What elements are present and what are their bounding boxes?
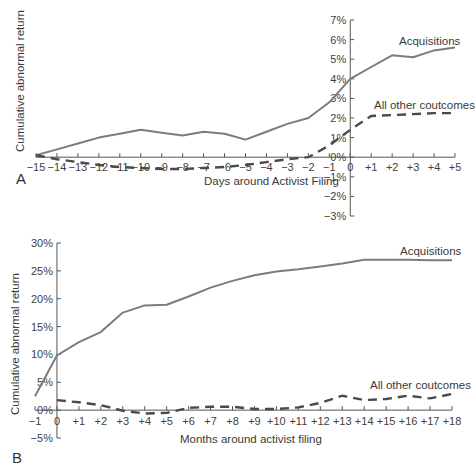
chart-panel-a: −15−14−13−12−11−10−9−8−7−6−5−4−3−2−10+1+… [14, 10, 475, 222]
figure: −15−14−13−12−11−10−9−8−7−6−5−4−3−2−10+1+… [0, 0, 476, 470]
x-tick-label: −3 [281, 161, 294, 173]
y-tick-label: 6% [330, 34, 346, 46]
x-ticks-a: −15−14−13−12−11−10−9−8−7−6−5−4−3−2−10+1+… [27, 153, 462, 173]
x-tick-label: −15 [27, 161, 46, 173]
x-tick-label: +3 [407, 161, 420, 173]
y-tick-label: −3% [324, 210, 347, 222]
x-tick-label: +9 [248, 415, 261, 427]
y-axis-title-a: Cumulative abnormal return [14, 10, 26, 152]
y-tick-label: 30% [31, 237, 53, 249]
panel-label-a: A [16, 170, 26, 187]
x-tick-label: +2 [95, 415, 108, 427]
y-tick-label: 25% [31, 265, 53, 277]
acquisitions-line-b [35, 260, 452, 397]
y-ticks-b: 30%25%20%15%10%5%0%−5% [31, 237, 61, 444]
x-tick-label: +14 [355, 415, 374, 427]
x-tick-label: −2 [302, 161, 315, 173]
x-tick-label: −1 [29, 415, 42, 427]
x-axis-title-a: Days around Activist Filing [204, 175, 339, 187]
x-tick-label: 0 [347, 161, 353, 173]
x-tick-label: −9 [155, 161, 168, 173]
x-tick-label: +6 [182, 415, 195, 427]
x-tick-label: −8 [176, 161, 189, 173]
y-ticks-a: 7%6%5%4%3%2%1%0%−1%−2%−3% [324, 14, 354, 222]
x-tick-label: +18 [443, 415, 462, 427]
y-tick-label: −2% [324, 190, 347, 202]
x-tick-label: +2 [386, 161, 399, 173]
x-tick-label: +5 [160, 415, 173, 427]
x-tick-label: +7 [204, 415, 217, 427]
y-axis-title-b: Cumulative abnormal return [9, 273, 21, 415]
x-tick-label: +4 [428, 161, 441, 173]
x-tick-label: +1 [73, 415, 86, 427]
x-tick-label: −5 [239, 161, 252, 173]
y-tick-label: 5% [330, 53, 346, 65]
x-tick-label: −12 [90, 161, 109, 173]
chart-panel-b: −10+1+2+3+4+5+6+7+8+9+10+11+12+13+14+15+… [9, 237, 471, 466]
x-tick-label: +13 [333, 415, 352, 427]
x-tick-label: +4 [138, 415, 151, 427]
y-tick-label: −5% [31, 432, 54, 444]
y-tick-label: 15% [31, 321, 53, 333]
x-tick-label: +11 [289, 415, 307, 427]
x-tick-label: 0 [54, 415, 60, 427]
y-tick-label: 7% [330, 14, 346, 26]
y-tick-label: 10% [31, 348, 53, 360]
x-tick-label: +5 [449, 161, 462, 173]
x-tick-label: +15 [377, 415, 396, 427]
y-tick-label: 4% [330, 73, 346, 85]
y-tick-label: 20% [31, 293, 53, 305]
x-tick-label: +17 [421, 415, 440, 427]
x-tick-label: +10 [267, 415, 286, 427]
x-tick-label: +1 [365, 161, 378, 173]
other-outcomes-label-a: All other coutcomes [374, 99, 475, 111]
acquisitions-label-a: Acquisitions [399, 35, 461, 47]
x-ticks-b: −10+1+2+3+4+5+6+7+8+9+10+11+12+13+14+15+… [29, 406, 462, 427]
x-axis-title-b: Months around activist filing [180, 433, 322, 445]
acquisitions-label-b: Acquisitions [400, 245, 462, 257]
x-tick-label: +8 [226, 415, 239, 427]
other-outcomes-label-b: All other coutcomes [370, 379, 471, 391]
x-tick-label: −14 [48, 161, 67, 173]
y-tick-label: 2% [330, 112, 346, 124]
y-tick-label: 0% [37, 404, 53, 416]
x-tick-label: +12 [311, 415, 330, 427]
x-tick-label: +3 [117, 415, 130, 427]
panel-label-b: B [12, 449, 22, 466]
y-tick-label: 0% [330, 151, 346, 163]
x-tick-label: +16 [399, 415, 418, 427]
